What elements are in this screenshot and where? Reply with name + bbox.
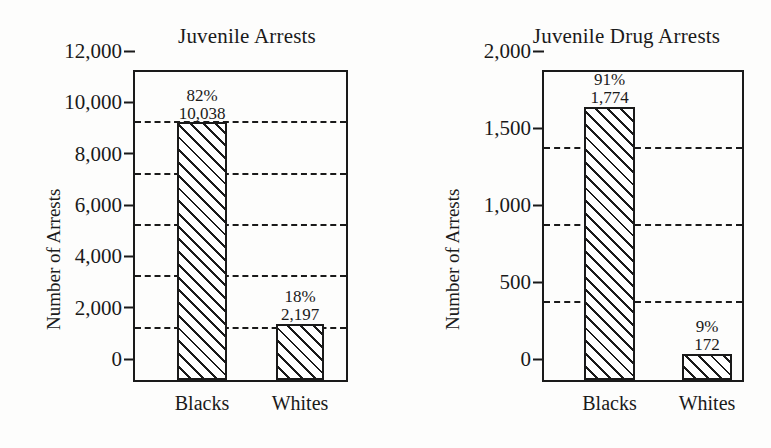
y-tick-label: 4,000 (75, 246, 135, 267)
y-tick-label: 0 (112, 349, 136, 370)
y-tick-label: 1,500 (484, 118, 544, 139)
gridline (135, 224, 346, 226)
gridline (135, 275, 346, 277)
bar-percent-text: 18% (281, 288, 319, 306)
figure-two-bar-charts: Juvenile Arrests Number of Arrests 12,00… (0, 0, 771, 448)
bar-count-text: 172 (694, 336, 720, 354)
x-tick-label-whites: Whites (272, 392, 329, 415)
y-tick-label: 6,000 (75, 195, 135, 216)
gridline (135, 121, 346, 123)
y-tick-label: 12,000 (64, 41, 135, 62)
y-tick-label: 2,000 (484, 41, 544, 62)
gridline (135, 173, 346, 175)
chart-panel-juvenile-drug-arrests: Juvenile Drug Arrests Number of Arrests … (390, 0, 771, 448)
y-tick-label: 1,000 (484, 195, 544, 216)
bar-percent-text: 91% (590, 71, 628, 89)
y-tick-label: 0 (521, 349, 545, 370)
y-tick-label: 2,000 (75, 297, 135, 318)
bar-value-label: 82%10,038 (179, 87, 226, 125)
bar-value-label: 9%172 (694, 318, 720, 356)
plot-area-left: 12,00010,0008,0006,0004,0002,000082%10,0… (133, 70, 348, 382)
chart-title-right: Juvenile Drug Arrests (390, 24, 771, 49)
gridline (544, 224, 742, 226)
bar-percent-text: 9% (694, 318, 720, 336)
bar-count-text: 1,774 (590, 89, 628, 107)
y-tick-label: 8,000 (75, 143, 135, 164)
bar-value-label: 18%2,197 (281, 288, 319, 326)
y-axis-title-right: Number of Arrests (442, 189, 464, 330)
y-tick-label: 10,000 (64, 92, 135, 113)
bar-whites: 18%2,197Whites (276, 324, 324, 380)
chart-panel-juvenile-arrests: Juvenile Arrests Number of Arrests 12,00… (0, 0, 390, 448)
x-tick-label-blacks: Blacks (175, 392, 229, 415)
bar-count-text: 2,197 (281, 306, 319, 324)
bar-blacks: 82%10,038Blacks (177, 122, 227, 380)
bar-value-label: 91%1,774 (590, 71, 628, 109)
bar-blacks: 91%1,774Blacks (584, 107, 635, 380)
y-axis-title-left: Number of Arrests (43, 189, 65, 330)
bar-count-text: 10,038 (179, 105, 226, 123)
x-tick-label-whites: Whites (679, 392, 736, 415)
bar-whites: 9%172Whites (682, 354, 732, 380)
bar-percent-text: 82% (179, 87, 226, 105)
plot-area-right: 2,0001,5001,000500091%1,774Blacks9%172Wh… (542, 70, 744, 382)
x-tick-label-blacks: Blacks (582, 392, 636, 415)
y-tick-label: 500 (500, 272, 545, 293)
gridline (544, 147, 742, 149)
gridline (544, 301, 742, 303)
